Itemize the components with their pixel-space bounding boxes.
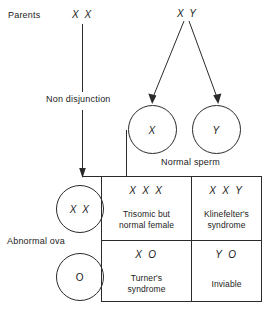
sperm-gamete-circle-y: Y: [192, 105, 241, 154]
punnett-cell-description-line1: Inviable: [211, 279, 241, 290]
ova-gamete-circle-xx: X X: [56, 185, 104, 233]
punnett-cell-description-line2: syndrome: [204, 220, 249, 231]
punnett-cell-description-line2: syndrome: [127, 284, 165, 295]
sperm-column-connector-line: [126, 130, 127, 177]
sperm-gamete-label-y: Y: [193, 124, 240, 135]
punnett-cell-description: Trisomic but normal female: [119, 209, 174, 230]
sperm-gamete-label-x: X: [129, 124, 176, 135]
punnett-cell-genotype: Y O: [215, 249, 237, 261]
punnett-cell-description: Klinefelter's syndrome: [204, 209, 249, 230]
punnett-cell-genotype: X O: [135, 249, 158, 261]
ova-gamete-circle-o: O: [56, 253, 104, 301]
punnett-cell-description-line1: Klinefelter's: [204, 209, 249, 220]
punnett-cell-xo: X O Turner's syndrome: [102, 241, 191, 302]
punnett-square-table: X X X Trisomic but normal female X X Y K…: [101, 176, 262, 302]
genetics-nondisjunction-diagram: Parents X X X Y Non disjunction X Y Norm…: [0, 0, 267, 314]
punnett-cell-genotype: X X X: [129, 185, 164, 197]
paternal-arrow-x-head: [148, 94, 156, 104]
punnett-cell-description: Turner's syndrome: [127, 273, 165, 294]
paternal-arrow-x-line: [154, 21, 185, 96]
paternal-arrow-y-line: [189, 21, 217, 96]
punnett-cell-description-line1: Trisomic but: [119, 209, 174, 220]
ova-gamete-label-xx: X X: [57, 204, 103, 215]
punnett-cell-description: Inviable: [211, 279, 241, 290]
punnett-cell-genotype: X X Y: [209, 185, 243, 197]
punnett-cell-yo: Y O Inviable: [192, 241, 261, 302]
sperm-gamete-circle-x: X: [128, 105, 177, 154]
punnett-cell-xxx: X X X Trisomic but normal female: [102, 177, 191, 240]
ova-gamete-label-o: O: [57, 272, 103, 283]
punnett-cell-xxy: X X Y Klinefelter's syndrome: [192, 177, 261, 240]
abnormal-ova-label: Abnormal ova: [7, 236, 65, 247]
punnett-cell-description-line2: normal female: [119, 220, 174, 231]
normal-sperm-label: Normal sperm: [161, 157, 220, 168]
paternal-arrow-y-head: [213, 93, 221, 104]
punnett-cell-description-line1: Turner's: [127, 273, 165, 284]
